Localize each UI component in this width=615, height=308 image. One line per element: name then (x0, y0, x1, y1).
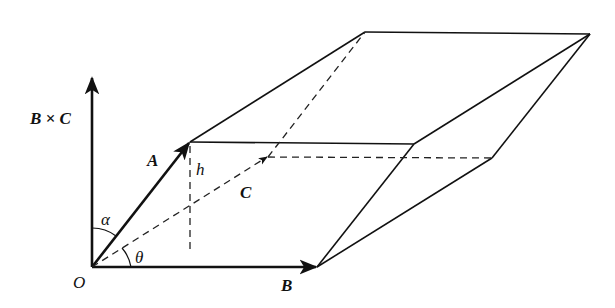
edge-c-to-ac (268, 32, 365, 157)
edge-c-to-bc (268, 157, 492, 158)
alpha-arc (92, 228, 116, 236)
label-a: A (146, 151, 158, 170)
label-alpha: α (101, 210, 111, 229)
edge-ac-to-abc (365, 32, 590, 34)
theta-arc (122, 248, 131, 267)
label-origin-o: O (73, 273, 85, 292)
label-b: B (280, 276, 292, 295)
edge-a-to-ac (190, 32, 365, 142)
label-h: h (196, 160, 205, 179)
edge-b-to-ab (317, 144, 414, 267)
parallelepiped-diagram: B × C A h C α θ O B (0, 0, 615, 308)
label-theta: θ (135, 248, 143, 267)
label-b-cross-c: B × C (29, 109, 72, 128)
vector-c (92, 157, 267, 267)
edge-b-to-bc (317, 158, 492, 267)
edge-bc-to-abc (492, 34, 590, 158)
label-c: C (240, 183, 252, 202)
solid-edges (190, 32, 590, 267)
edge-a-to-ab (190, 142, 414, 144)
edge-ab-to-abc (414, 34, 590, 144)
